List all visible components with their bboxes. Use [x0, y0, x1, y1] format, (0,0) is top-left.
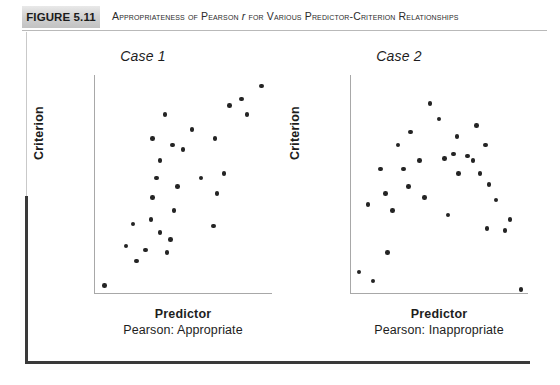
scatter-panel-case-1: Case 1 Criterion Predictor Pearson: Appr…	[34, 44, 284, 356]
scatter-point	[163, 112, 168, 117]
scatter-point	[508, 217, 513, 222]
figure-page: FIGURE 5.11 Appropriateness of Pearson r…	[0, 0, 560, 385]
scatter-point	[150, 136, 155, 141]
scatter-point	[172, 208, 177, 213]
scatter-point	[158, 158, 163, 163]
scatter-point	[124, 244, 129, 249]
scatter-point	[222, 171, 227, 176]
x-axis-label-case-1: Predictor	[78, 307, 288, 321]
figure-title-suffix: for Various Predictor-Criterion Relation…	[245, 10, 458, 22]
scatter-point	[175, 184, 180, 189]
scatter-point	[215, 191, 220, 196]
figure-number-badge: FIGURE 5.11	[22, 6, 100, 28]
frame-bottom-dark-rule	[25, 361, 530, 364]
scatter-point	[437, 117, 442, 122]
scatter-point	[181, 147, 186, 152]
x-axis-line-case-2	[350, 293, 528, 294]
scatter-point	[401, 167, 406, 172]
scatter-point	[154, 176, 159, 181]
scatter-point	[390, 208, 395, 213]
scatter-point	[211, 224, 216, 229]
scatter-point	[442, 156, 447, 161]
scatter-point	[483, 143, 488, 148]
y-axis-line-case-2	[350, 75, 351, 294]
scatter-point	[150, 195, 155, 200]
scatter-panel-case-2: Case 2 Criterion Predictor Pearson: Inap…	[290, 44, 540, 356]
scatter-point	[213, 136, 218, 141]
scatter-point	[408, 130, 413, 135]
scatter-point	[383, 191, 388, 196]
scatter-point	[102, 283, 107, 288]
scatter-point	[227, 103, 232, 108]
scatter-point	[168, 237, 173, 242]
plot-area-case-2	[350, 75, 528, 294]
figure-header: FIGURE 5.11 Appropriateness of Pearson r…	[22, 6, 550, 28]
x-axis-label-case-2: Predictor	[334, 307, 544, 321]
scatter-point	[165, 250, 170, 255]
scatter-point	[245, 112, 250, 117]
scatter-point	[474, 123, 479, 128]
scatter-point	[471, 158, 476, 163]
x-axis-line-case-1	[94, 293, 272, 294]
scatter-point	[446, 213, 451, 218]
scatter-point	[485, 226, 490, 231]
scatter-point	[478, 171, 483, 176]
scatter-point	[422, 195, 427, 200]
scatter-point	[455, 134, 460, 139]
scatter-point	[259, 84, 264, 89]
panel-title-case-1: Case 1	[18, 48, 268, 64]
scatter-point	[494, 198, 499, 203]
scatter-point	[487, 182, 492, 187]
scatter-point	[158, 230, 163, 235]
scatter-point	[366, 202, 371, 207]
scatter-point	[134, 259, 139, 264]
y-axis-line-case-1	[94, 75, 95, 294]
caption-case-2: Pearson: Inappropriate	[334, 323, 544, 337]
caption-case-1: Pearson: Appropriate	[78, 323, 288, 337]
scatter-point	[239, 97, 244, 102]
header-divider	[22, 30, 547, 31]
figure-number-label: FIGURE 5.11	[26, 11, 96, 23]
scatter-point	[199, 176, 204, 181]
scatter-point	[456, 171, 461, 176]
panel-title-case-2: Case 2	[274, 48, 524, 64]
scatter-point	[428, 101, 433, 106]
scatter-point	[378, 167, 383, 172]
y-axis-label-case-2: Criterion	[288, 106, 302, 160]
scatter-point	[451, 152, 456, 157]
scatter-point	[503, 228, 508, 233]
scatter-point	[149, 217, 154, 222]
y-axis-label-case-1: Criterion	[32, 106, 46, 160]
scatter-point	[396, 143, 401, 148]
scatter-point	[519, 287, 524, 292]
frame-left-dark-rule	[25, 196, 28, 364]
figure-title-prefix: Appropriateness of Pearson	[112, 10, 242, 22]
scatter-point	[131, 222, 136, 227]
scatter-point	[143, 248, 148, 253]
figure-title: Appropriateness of Pearson r for Various…	[112, 10, 459, 22]
scatter-point	[385, 250, 390, 255]
scatter-point	[357, 270, 362, 275]
plot-area-case-1	[94, 75, 272, 294]
scatter-point	[465, 154, 470, 159]
scatter-point	[417, 158, 422, 163]
scatter-point	[406, 184, 411, 189]
scatter-point	[371, 279, 376, 284]
scatter-point	[190, 127, 195, 132]
scatter-point	[170, 143, 175, 148]
